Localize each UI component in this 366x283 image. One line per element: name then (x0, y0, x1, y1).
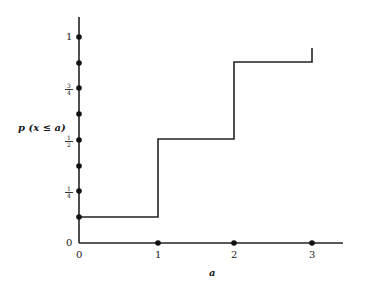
cdf-step-line (79, 48, 312, 217)
x-tick-0: 0 (76, 250, 82, 260)
y-tick-1: 1 (66, 32, 72, 42)
x-tick-1: 1 (155, 250, 161, 260)
y-axis-title: p (x ≤ a) (18, 122, 66, 133)
x-axis-title: a (209, 267, 215, 278)
y-tick-0: 0 (66, 238, 72, 248)
x-tick-3: 3 (309, 250, 315, 260)
y-tick-1-4: 14 (65, 186, 73, 199)
y-tick-3-4: 34 (65, 83, 73, 96)
y-tick-1-2: 12 (65, 135, 73, 148)
x-tick-2: 2 (231, 250, 237, 260)
step-chart (0, 0, 366, 283)
